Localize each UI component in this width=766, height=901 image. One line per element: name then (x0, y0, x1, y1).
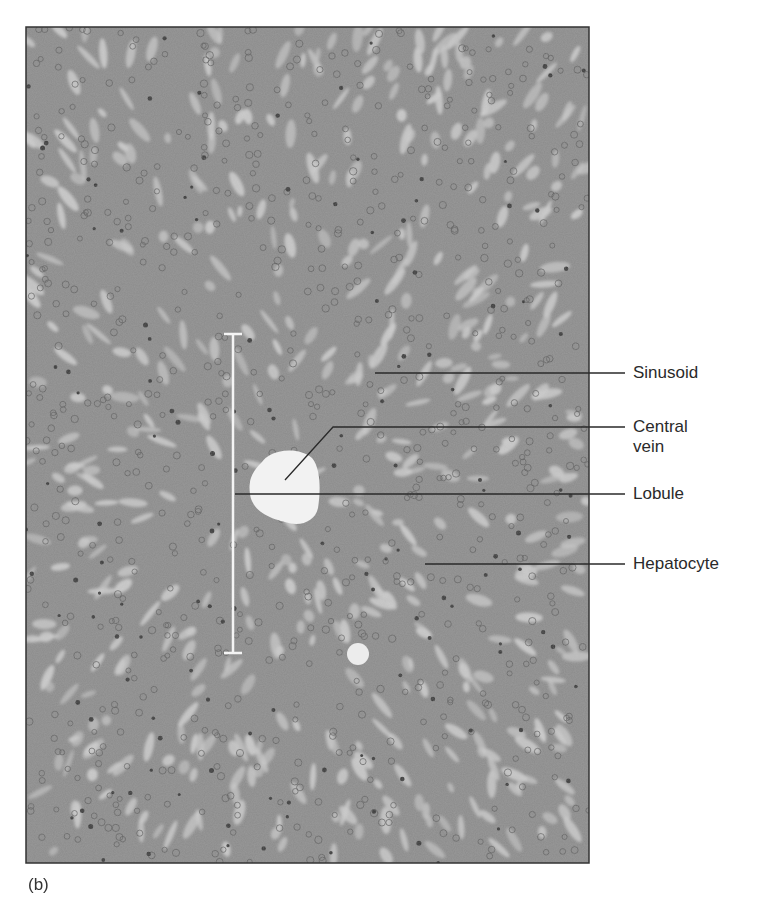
sinusoid-label: Sinusoid (633, 363, 698, 383)
central-vein-label: Central vein (633, 417, 688, 457)
micrograph-image (15, 14, 602, 869)
hepatocyte-label: Hepatocyte (633, 554, 719, 574)
lobule-label: Lobule (633, 484, 684, 504)
small-vessel-lumen (347, 643, 369, 665)
panel-label: (b) (28, 875, 49, 895)
